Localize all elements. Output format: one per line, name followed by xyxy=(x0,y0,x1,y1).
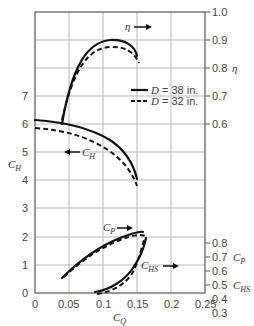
eta-curve-38in xyxy=(62,40,137,124)
chs-annotation: CHS xyxy=(141,259,158,274)
svg-text:0.6: 0.6 xyxy=(212,265,227,277)
x-axis-title: CQ xyxy=(113,311,126,326)
pump-performance-chart: 0 1 2 3 4 5 6 7 CH 0 0.05 0.1 0.15 0.2 0… xyxy=(0,0,254,326)
svg-text:0.6: 0.6 xyxy=(212,118,227,130)
svg-text:6: 6 xyxy=(22,118,28,130)
eta-annotation: η xyxy=(125,20,130,32)
svg-text:0.05: 0.05 xyxy=(58,298,79,310)
svg-text:0.8: 0.8 xyxy=(212,62,227,74)
svg-text:0.9: 0.9 xyxy=(212,34,227,46)
svg-text:0.1: 0.1 xyxy=(96,298,111,310)
right-axis-ticks xyxy=(205,12,210,285)
left-axis-title: CH xyxy=(8,158,22,173)
svg-text:5: 5 xyxy=(22,146,28,158)
x-axis-labels: 0 0.05 0.1 0.15 0.2 0.25 CQ xyxy=(32,298,216,326)
svg-text:0.8: 0.8 xyxy=(212,237,227,249)
legend-32in: D = 32 in. xyxy=(150,95,198,107)
eta-axis-title: η xyxy=(232,62,237,74)
cp-annotation: CP xyxy=(103,221,115,236)
svg-text:0.7: 0.7 xyxy=(212,90,227,102)
svg-text:4: 4 xyxy=(22,174,28,186)
svg-text:0.3: 0.3 xyxy=(212,307,227,319)
right-axis-eta-labels: 1.0 0.9 0.8 0.7 0.6 η xyxy=(212,6,237,130)
svg-text:1: 1 xyxy=(22,259,28,271)
ch-annotation: CH xyxy=(82,146,96,161)
svg-text:1.0: 1.0 xyxy=(212,6,227,18)
left-axis-labels: 0 1 2 3 4 5 6 7 CH xyxy=(8,90,28,299)
svg-text:0.15: 0.15 xyxy=(127,298,148,310)
svg-text:3: 3 xyxy=(22,202,28,214)
svg-text:0: 0 xyxy=(32,298,38,310)
svg-text:0.7: 0.7 xyxy=(212,251,227,263)
eta-curve-32in xyxy=(62,47,139,120)
svg-text:0.2: 0.2 xyxy=(164,298,179,310)
svg-text:0: 0 xyxy=(22,287,28,299)
ch-arrow-head-icon xyxy=(64,149,70,155)
chs-axis-title: CHS xyxy=(233,279,250,294)
cp-axis-title: CP xyxy=(233,251,245,266)
svg-text:0.4: 0.4 xyxy=(212,293,227,305)
right-axis-cp-labels: 0.8 0.7 0.6 0.5 0.4 0.3 xyxy=(212,237,227,319)
cp-arrow-head-icon xyxy=(127,225,133,231)
eta-arrow-head-icon xyxy=(146,24,152,30)
grid-horizontal xyxy=(35,40,205,265)
svg-text:2: 2 xyxy=(22,231,28,243)
svg-text:0.5: 0.5 xyxy=(212,279,227,291)
svg-text:7: 7 xyxy=(22,90,28,102)
chs-arrow-head-icon xyxy=(173,263,179,269)
